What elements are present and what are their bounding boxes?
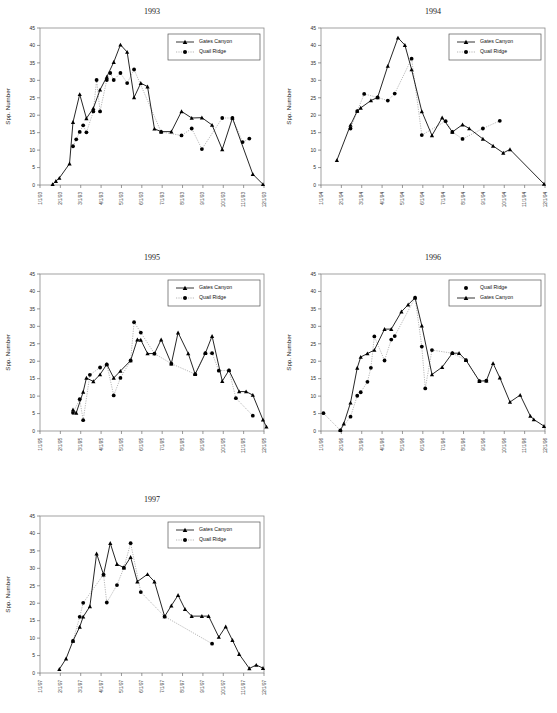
y-tick-label: 15: [310, 375, 316, 381]
y-tick-label: 5: [32, 410, 35, 416]
x-tick-label: 7/1/97: [160, 680, 165, 693]
y-tick-label: 5: [32, 652, 35, 658]
y-tick-label: 35: [29, 548, 35, 554]
series-path: [340, 298, 544, 431]
y-tick-label: 40: [29, 42, 35, 48]
data-point-marker: [237, 652, 241, 656]
data-point-marker: [176, 593, 180, 597]
series-quail-ridge: [349, 57, 502, 141]
legend-label: Quail Ridge: [480, 48, 507, 54]
data-point-marker: [108, 541, 112, 545]
y-tick-label: 25: [310, 341, 316, 347]
chart-1997: 19970510152025303540451/1/972/1/973/1/97…: [0, 490, 276, 713]
x-tick-label: 7/1/93: [160, 192, 165, 205]
data-point-marker: [129, 541, 133, 545]
data-point-marker: [176, 331, 180, 335]
data-point-marker: [234, 396, 238, 400]
legend-label: Quail Ridge: [480, 284, 507, 290]
chart-legend: Quail RidgeGates Canyon: [449, 280, 541, 306]
y-tick-label: 5: [313, 164, 316, 170]
x-tick-label: 9/1/94: [481, 192, 486, 205]
y-tick-label: 25: [29, 95, 35, 101]
x-tick-label: 5/1/96: [400, 438, 405, 451]
data-point-marker: [386, 99, 390, 103]
x-tick-label: 4/1/96: [380, 438, 385, 451]
series-path: [73, 70, 249, 150]
y-tick-label: 10: [310, 393, 316, 399]
series-quail-ridge: [71, 68, 251, 151]
data-point-marker: [348, 123, 352, 127]
data-point-marker: [369, 98, 373, 102]
y-tick-label: 45: [29, 271, 35, 277]
data-point-marker: [491, 361, 495, 365]
series-path: [73, 543, 212, 643]
legend-marker-circle-icon: [183, 296, 187, 300]
x-tick-label: 5/1/94: [400, 192, 405, 205]
chart-legend: Gates CanyonQuail Ridge: [449, 34, 541, 60]
x-tick-label: 8/1/93: [180, 192, 185, 205]
y-tick-label: 10: [29, 393, 35, 399]
x-tick-label: 4/1/97: [99, 680, 104, 693]
data-point-marker: [362, 92, 366, 96]
data-point-marker: [125, 81, 129, 85]
data-point-marker: [81, 123, 85, 127]
x-tick-label: 6/1/96: [420, 438, 425, 451]
y-tick-label: 45: [29, 25, 35, 31]
x-tick-label: 1/1/94: [319, 192, 324, 205]
data-point-marker: [254, 663, 258, 667]
data-point-marker: [420, 345, 424, 349]
x-tick-label: 12/1/94: [543, 192, 548, 208]
series-gates-canyon: [71, 331, 269, 429]
data-point-marker: [396, 36, 400, 40]
y-axis-title: Spp. Number: [4, 88, 11, 124]
y-tick-label: 20: [29, 600, 35, 606]
legend-marker-circle-icon: [183, 50, 187, 54]
data-point-marker: [355, 366, 359, 370]
x-tick-label: 10/1/93: [221, 192, 226, 208]
data-point-marker: [85, 130, 89, 134]
data-point-marker: [210, 334, 214, 338]
data-point-marker: [498, 119, 502, 123]
data-point-marker: [98, 109, 102, 113]
data-point-marker: [342, 422, 346, 426]
chart-legend: Gates CanyonQuail Ridge: [168, 280, 260, 306]
x-tick-label: 2/1/97: [58, 680, 63, 693]
chart-title-1997: 1997: [144, 495, 160, 504]
y-tick-label: 40: [29, 288, 35, 294]
x-tick-label: 1/1/95: [38, 438, 43, 451]
x-tick-label: 5/1/97: [119, 680, 124, 693]
y-tick-label: 10: [29, 147, 35, 153]
data-point-marker: [251, 393, 255, 397]
data-point-marker: [261, 418, 265, 422]
x-tick-label: 3/1/94: [359, 192, 364, 205]
x-tick-label: 10/1/97: [221, 680, 226, 696]
chart-1993: 19930510152025303540451/1/932/1/933/1/93…: [0, 2, 276, 245]
data-point-marker: [348, 401, 352, 405]
data-point-marker: [210, 642, 214, 646]
data-point-marker: [366, 380, 370, 384]
data-point-marker: [518, 393, 522, 397]
data-point-marker: [230, 638, 234, 642]
x-tick-label: 11/1/93: [241, 192, 246, 207]
x-tick-label: 1/1/96: [319, 438, 324, 451]
x-tick-label: 2/1/96: [339, 438, 344, 451]
data-point-marker: [220, 379, 224, 383]
y-tick-label: 30: [29, 323, 35, 329]
x-tick-label: 9/1/95: [200, 438, 205, 451]
data-point-marker: [322, 411, 326, 415]
data-point-marker: [78, 625, 82, 629]
data-point-marker: [179, 109, 183, 113]
series-gates-canyon: [57, 541, 265, 671]
data-point-marker: [251, 414, 255, 418]
y-axis-title: Spp. Number: [285, 334, 292, 370]
chart-panel-1994: 19940510152025303540451/1/942/1/943/1/94…: [281, 2, 557, 245]
x-tick-label: 5/1/95: [119, 438, 124, 451]
data-point-marker: [71, 120, 75, 124]
legend-label: Gates Canyon: [480, 38, 513, 44]
legend-label: Gates Canyon: [199, 38, 232, 44]
data-point-marker: [91, 106, 95, 110]
y-tick-label: 45: [310, 271, 316, 277]
series-quail-ridge: [71, 320, 255, 422]
y-tick-label: 10: [310, 147, 316, 153]
data-point-marker: [78, 92, 82, 96]
